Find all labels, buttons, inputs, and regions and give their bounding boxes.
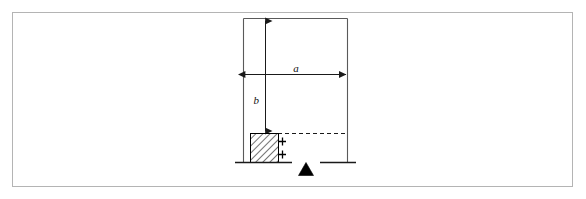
hatched-block: [251, 134, 279, 163]
block-tick-mark-lower: [279, 151, 286, 159]
diagram-canvas: a b: [0, 0, 586, 199]
figure-container: a b: [0, 0, 586, 199]
triangular-pivot-support: [299, 163, 314, 176]
block-tick-mark-upper: [279, 138, 286, 146]
width-dimension-label: a: [293, 62, 299, 74]
height-dimension-label: b: [254, 94, 260, 106]
outer-frame-border: [13, 13, 573, 187]
